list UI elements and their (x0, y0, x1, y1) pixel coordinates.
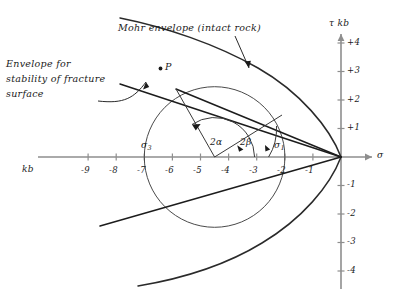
fracture-envelope-label-line-3: surface (6, 88, 44, 100)
mohr-envelope-label: Mohr envelope (intact rock) (118, 22, 261, 34)
sigma3-label: σ3 (141, 140, 152, 152)
tick-label-x-5: -5 (193, 165, 202, 176)
sigma3-subscript: 3 (147, 144, 151, 152)
tick-label-y-m3: -3 (347, 236, 356, 247)
tick-label-y-m2: -2 (347, 208, 356, 219)
sigma1-subscript: 1 (280, 144, 284, 152)
tick-label-x-3: -3 (249, 165, 258, 176)
tick-label-y-p1: +1 (347, 122, 360, 133)
fracture-envelope-tangent-line (176, 89, 341, 157)
tick-label-y-p2: +2 (347, 94, 360, 105)
sigma1-label: σ1 (274, 140, 285, 152)
tick-label-x-6: -6 (165, 165, 174, 176)
sigma-axis-title: σ (377, 150, 383, 162)
fracture-envelope-label-line-1: Envelope for (6, 58, 71, 70)
point-p-marker (159, 67, 163, 71)
tick-label-y-p3: +3 (347, 65, 360, 76)
sigma-axis-arrowhead (365, 154, 372, 161)
sigma-axis-unit-label: kb (22, 164, 34, 176)
angle-2beta-label: 2β (240, 137, 252, 149)
tick-label-x-2: -2 (277, 165, 286, 176)
tick-label-x-1: -1 (305, 165, 314, 176)
mohr-diagram-figure: Mohr envelope (intact rock) Envelope for… (0, 0, 396, 301)
tau-axis-title: τ kb (329, 18, 349, 30)
diagram-canvas (0, 0, 396, 301)
tick-label-y-p4: +4 (347, 37, 360, 48)
fracture-envelope-leader-arrowhead (143, 82, 149, 90)
tick-label-y-m4: -4 (347, 265, 356, 276)
mohr-envelope-lower-curve (138, 157, 341, 286)
point-p-label: P (165, 61, 172, 73)
tau-axis-arrowhead (338, 34, 345, 41)
tick-label-y-m1: -1 (347, 179, 356, 190)
tick-label-x-9: -9 (81, 165, 90, 176)
fracture-envelope-label-line-2: stability of fracture (6, 73, 105, 85)
tick-label-x-7: -7 (137, 165, 146, 176)
tick-label-x-4: -4 (221, 165, 230, 176)
angle-arc-2beta-arrowhead (265, 145, 270, 152)
angle-2alpha-label: 2α (210, 137, 222, 149)
tick-label-x-8: -8 (109, 165, 118, 176)
mohr-envelope-leader-arrowhead (245, 61, 251, 68)
mohr-envelope-upper-curve (120, 18, 341, 157)
